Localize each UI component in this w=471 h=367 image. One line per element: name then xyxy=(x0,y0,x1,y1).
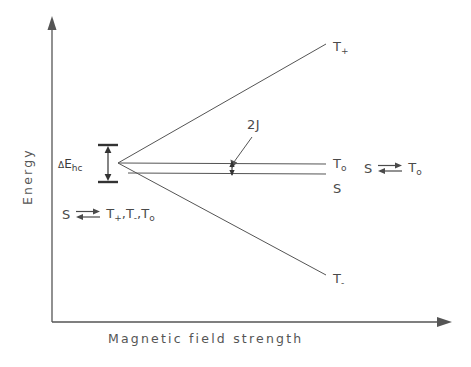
term-t-plus-sub: + xyxy=(114,213,122,223)
term-high-t-zero-sub: o xyxy=(416,167,422,177)
state-base-t-minus: T xyxy=(333,271,341,286)
diagram-svg xyxy=(0,0,471,367)
equilibrium-left-species-high: S xyxy=(364,161,372,176)
state-base-t-zero: T xyxy=(333,156,341,171)
y-axis-arrowhead xyxy=(48,16,57,30)
term-t-zero-sub: o xyxy=(149,213,155,223)
equilibrium-arrow-icon-low xyxy=(75,207,101,221)
coupling-2j-label: 2J xyxy=(247,118,260,131)
state-label-t-zero: To xyxy=(333,157,346,173)
equilibrium-arrow-icon-high xyxy=(377,161,403,175)
term-t-minus-base: T xyxy=(126,206,134,221)
equilibrium-right-species-low: T+,T-,To xyxy=(106,206,154,223)
term-t-zero-base: T xyxy=(141,206,149,221)
equilibrium-right-species-high: To xyxy=(408,160,421,177)
high-field-equilibrium: S To xyxy=(364,160,422,177)
equilibrium-left-species-low: S xyxy=(62,207,70,222)
y-axis-label: Energy xyxy=(22,148,35,205)
x-axis-label: Magnetic field strength xyxy=(108,333,303,346)
level-line-t-zero xyxy=(118,163,326,164)
x-axis xyxy=(52,317,452,327)
level-line-t-plus xyxy=(118,44,326,163)
figure-canvas: Energy Magnetic field strength ΔEhc 2J T… xyxy=(0,0,471,367)
state-sub-t-minus: - xyxy=(341,278,344,288)
delta-e-subscript: hc xyxy=(72,163,83,173)
state-sub-t-zero: o xyxy=(341,163,347,173)
delta-e-base: E xyxy=(64,157,72,171)
state-label-t-minus: T- xyxy=(333,272,344,288)
delta-e-measure-arrow xyxy=(98,145,118,182)
level-line-s xyxy=(128,173,326,174)
x-axis-arrowhead xyxy=(437,317,452,327)
delta-e-hc-label: ΔEhc xyxy=(58,158,82,173)
y-axis xyxy=(48,16,57,322)
state-base-t-plus: T xyxy=(333,39,341,54)
state-label-t-plus: T+ xyxy=(333,40,349,56)
state-sub-t-plus: + xyxy=(341,46,349,56)
state-label-s: S xyxy=(333,182,341,198)
low-field-equilibrium: S T+,T-,To xyxy=(62,206,155,223)
coupling-2j-marker xyxy=(229,137,252,176)
energy-level-lines xyxy=(118,44,326,275)
state-base-s: S xyxy=(333,181,341,196)
